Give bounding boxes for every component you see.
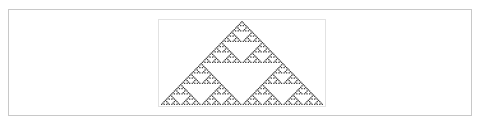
automaton-figure: Sierpinski triangle pattern generated by… bbox=[158, 19, 326, 107]
sierpinski-triangle-graphic bbox=[159, 20, 325, 106]
